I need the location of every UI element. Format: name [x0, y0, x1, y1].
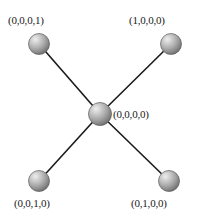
node-label-bottom-left: (0,0,1,0) [14, 197, 50, 209]
graph-canvas [0, 0, 198, 220]
node-bottom-left [29, 171, 50, 192]
edge-center-to-bottom-left [39, 114, 100, 181]
star-graph-diagram: (0,0,0,1) (1,0,0,0) (0,0,0,0) (0,0,1,0) … [0, 0, 198, 220]
edge-center-to-top-left [39, 44, 100, 114]
node-label-bottom-right: (0,1,0,0) [131, 197, 167, 209]
edge-center-to-top-right [100, 44, 171, 114]
node-top-left [29, 34, 50, 55]
node-bottom-right [159, 171, 180, 192]
edge-center-to-bottom-right [100, 114, 169, 181]
node-label-center: (0,0,0,0) [113, 108, 149, 120]
node-label-top-right: (1,0,0,0) [129, 14, 165, 26]
node-top-right [161, 34, 182, 55]
node-label-top-left: (0,0,0,1) [8, 14, 44, 26]
node-center [89, 103, 112, 126]
